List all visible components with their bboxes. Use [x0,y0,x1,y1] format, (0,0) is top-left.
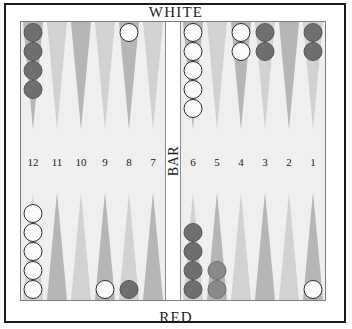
point-6[interactable] [181,22,205,134]
game-board[interactable]: 121110987 BAR 654321 [20,21,326,301]
point-triangle [231,192,251,300]
point-number-1: 1 [301,156,325,168]
checker-red[interactable] [24,61,43,80]
checker-white[interactable] [184,42,203,61]
point-triangle [255,192,275,300]
point-number-8: 8 [117,156,141,168]
checker-stack[interactable] [96,280,115,299]
checker-stack[interactable] [232,23,251,61]
point-10[interactable] [69,22,93,134]
point-triangle [279,22,299,130]
point-13[interactable] [21,188,45,300]
point-triangle [143,22,163,130]
point-number-9: 9 [93,156,117,168]
point-number-6: 6 [181,156,205,168]
checker-white[interactable] [24,223,43,242]
point-triangle [71,22,91,130]
checker-red[interactable] [256,42,275,61]
point-number-12: 12 [21,156,45,168]
point-number-2: 2 [277,156,301,168]
checker-red[interactable] [256,23,275,42]
point-numbers-right: 654321 [181,134,325,190]
checker-red[interactable] [184,242,203,261]
point-14[interactable] [45,188,69,300]
top-player-label: WHITE [0,4,352,21]
checker-red[interactable] [184,280,203,299]
checker-stack[interactable] [24,23,43,99]
checker-stack[interactable] [304,23,323,61]
checker-stack[interactable] [304,280,323,299]
checker-red[interactable] [304,23,323,42]
point-triangle [95,22,115,130]
checker-white[interactable] [24,204,43,223]
point-11[interactable] [45,22,69,134]
checker-red[interactable] [184,261,203,280]
point-3[interactable] [253,22,277,134]
checker-stack[interactable] [120,280,139,299]
point-5[interactable] [205,22,229,134]
bottom-player-label: RED [0,309,352,326]
checker-stack[interactable] [184,23,203,118]
checker-stack[interactable] [208,261,227,299]
checker-white[interactable] [304,280,323,299]
checker-stack[interactable] [120,23,139,42]
point-number-7: 7 [141,156,165,168]
checker-red[interactable] [24,23,43,42]
checker-white[interactable] [120,23,139,42]
point-18[interactable] [141,188,165,300]
point-triangle [47,22,67,130]
point-22[interactable] [253,188,277,300]
point-20[interactable] [205,188,229,300]
point-triangle [207,22,227,130]
checker-red[interactable] [120,280,139,299]
checker-red[interactable] [184,223,203,242]
point-17[interactable] [117,188,141,300]
checker-stack[interactable] [184,223,203,299]
point-number-11: 11 [45,156,69,168]
point-23[interactable] [277,188,301,300]
quadrant-bottom-left [21,188,165,300]
point-numbers-left: 121110987 [21,134,165,190]
point-number-10: 10 [69,156,93,168]
point-24[interactable] [301,188,325,300]
point-number-4: 4 [229,156,253,168]
point-number-5: 5 [205,156,229,168]
quadrant-top-right [181,22,325,134]
point-12[interactable] [21,22,45,134]
checker-red[interactable] [208,280,227,299]
checker-white[interactable] [184,61,203,80]
point-1[interactable] [301,22,325,134]
checker-red[interactable] [24,42,43,61]
checker-white[interactable] [232,42,251,61]
point-7[interactable] [141,22,165,134]
checker-white[interactable] [184,99,203,118]
checker-white[interactable] [24,261,43,280]
checker-stack[interactable] [256,23,275,61]
checker-white[interactable] [24,280,43,299]
point-15[interactable] [69,188,93,300]
checker-white[interactable] [184,80,203,99]
point-triangle [279,192,299,300]
checker-white[interactable] [96,280,115,299]
checker-white[interactable] [184,23,203,42]
checker-stack[interactable] [24,204,43,299]
point-9[interactable] [93,22,117,134]
point-triangle [143,192,163,300]
checker-red[interactable] [24,80,43,99]
board-half-left: 121110987 [21,22,166,300]
point-4[interactable] [229,22,253,134]
checker-white[interactable] [24,242,43,261]
point-triangle [47,192,67,300]
quadrant-bottom-right [181,188,325,300]
backgammon-board-screenshot: WHITE 121110987 BAR 654321 RED [0,0,352,329]
point-21[interactable] [229,188,253,300]
checker-red[interactable] [304,42,323,61]
point-19[interactable] [181,188,205,300]
point-number-3: 3 [253,156,277,168]
point-2[interactable] [277,22,301,134]
point-16[interactable] [93,188,117,300]
point-8[interactable] [117,22,141,134]
point-triangle [71,192,91,300]
checker-red[interactable] [208,261,227,280]
checker-white[interactable] [232,23,251,42]
